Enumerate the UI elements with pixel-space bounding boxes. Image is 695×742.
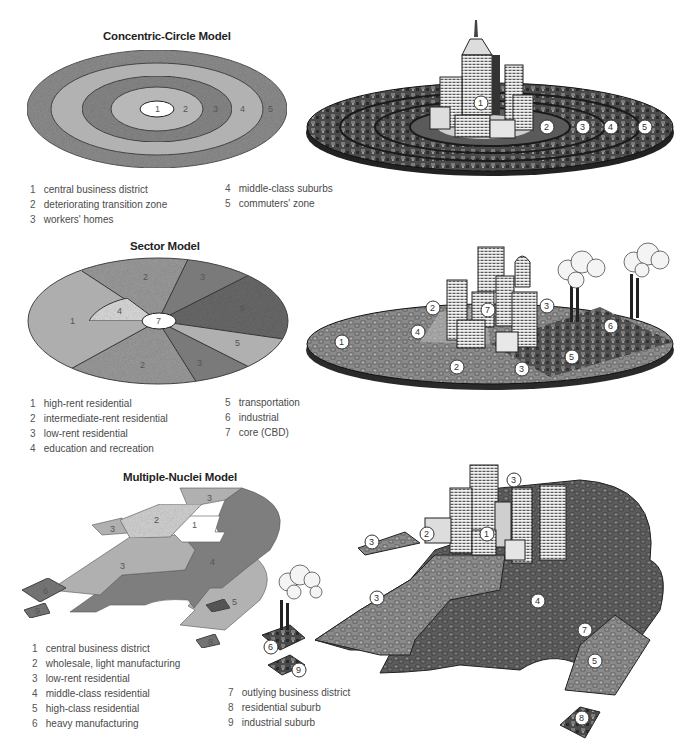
svg-text:2: 2 <box>154 515 159 525</box>
legend-item: 3 low-rent residential <box>32 671 180 686</box>
svg-text:7: 7 <box>582 625 587 635</box>
zone-badge: 2 <box>426 301 440 315</box>
zone-badge: 3 <box>576 120 590 134</box>
zone-badge: 7 <box>481 303 495 317</box>
svg-text:3: 3 <box>374 593 379 603</box>
zone-badge: 8 <box>575 711 589 725</box>
svg-text:4: 4 <box>535 596 540 606</box>
svg-text:2: 2 <box>430 303 435 313</box>
sector-diagram: 1 2 2 3 3 4 5 6 7 <box>27 256 289 386</box>
svg-text:3: 3 <box>207 493 212 503</box>
svg-text:9: 9 <box>35 606 40 616</box>
svg-text:5: 5 <box>569 352 574 362</box>
legend-item: 2 intermediate-rent residential <box>30 411 168 426</box>
zone-badge: 1 <box>474 96 488 110</box>
zone-badge: 4 <box>604 120 618 134</box>
svg-text:6: 6 <box>608 321 613 331</box>
svg-text:3: 3 <box>120 561 125 571</box>
legend-item: 6 industrial <box>225 410 300 425</box>
svg-text:1: 1 <box>484 529 489 539</box>
zone-label: 1 <box>155 104 160 114</box>
svg-text:1: 1 <box>339 337 344 347</box>
svg-text:3: 3 <box>511 475 516 485</box>
zone-badge: 2 <box>450 360 464 374</box>
svg-text:7: 7 <box>156 316 161 326</box>
sector-model-title: Sector Model <box>130 240 200 252</box>
legend-item: 2 wholesale, light manufacturing <box>32 656 180 671</box>
legend-item: 2 deteriorating transition zone <box>30 197 167 212</box>
nuclei-legend-col1: 1 central business district 2 wholesale,… <box>32 641 180 731</box>
svg-text:8: 8 <box>579 713 584 723</box>
zone-badge: 1 <box>335 335 349 349</box>
legend-item: 4 education and recreation <box>30 441 168 456</box>
zone-label: 5 <box>268 104 273 114</box>
zone-badge: 5 <box>638 120 652 134</box>
svg-text:8: 8 <box>208 637 213 647</box>
sector-legend-col2: 5 transportation 6 industrial 7 core (CB… <box>225 395 300 440</box>
legend-item: 1 high-rent residential <box>30 396 168 411</box>
zone-label: 3 <box>213 104 218 114</box>
svg-text:2: 2 <box>544 122 549 132</box>
concentric-diagram: 1 2 3 4 5 <box>25 48 290 170</box>
svg-text:4: 4 <box>415 327 420 337</box>
zone-badge: 2 <box>540 120 554 134</box>
zone-label: 2 <box>183 104 188 114</box>
svg-text:2: 2 <box>454 362 459 372</box>
svg-text:1: 1 <box>70 316 75 326</box>
legend-item: 4 middle-class residential <box>32 686 180 701</box>
svg-text:4: 4 <box>210 557 215 567</box>
sector-legend-col1: 1 high-rent residential 2 intermediate-r… <box>30 396 168 456</box>
nuclei-city-illustration: 3 3 2 1 3 4 7 5 6 9 8 <box>250 440 695 742</box>
svg-text:7: 7 <box>485 305 490 315</box>
svg-text:1: 1 <box>192 520 197 530</box>
concentric-city-illustration: 1 2 3 4 5 <box>300 15 680 180</box>
svg-text:3: 3 <box>200 272 205 282</box>
zone-badge: 3 <box>540 299 554 313</box>
svg-text:5: 5 <box>592 656 597 666</box>
zone-badge: 5 <box>588 654 602 668</box>
svg-text:3: 3 <box>580 122 585 132</box>
zone-badge: 1 <box>480 527 494 541</box>
legend-item: 3 workers' homes <box>30 212 167 227</box>
zone-badge: 9 <box>292 663 306 677</box>
legend-item: 1 central business district <box>30 182 167 197</box>
zone-badge: 4 <box>411 325 425 339</box>
zone-badge: 5 <box>565 350 579 364</box>
zone-label: 4 <box>240 104 245 114</box>
legend-item: 5 high-class residential <box>32 701 180 716</box>
legend-item: 5 commuters' zone <box>225 196 333 211</box>
concentric-model-title: Concentric-Circle Model <box>103 30 231 42</box>
concentric-legend-col2: 4 middle-class suburbs 5 commuters' zone <box>225 181 333 211</box>
zone-badge: 3 <box>515 362 529 376</box>
svg-text:2: 2 <box>140 360 145 370</box>
legend-item: 6 heavy manufacturing <box>32 716 180 731</box>
legend-item: 5 transportation <box>225 395 300 410</box>
zone-badge: 3 <box>370 591 384 605</box>
svg-text:5: 5 <box>642 122 647 132</box>
svg-text:6: 6 <box>240 303 245 313</box>
svg-text:6: 6 <box>268 642 273 652</box>
svg-text:5: 5 <box>235 338 240 348</box>
svg-text:3: 3 <box>369 537 374 547</box>
concentric-legend-col1: 1 central business district 2 deteriorat… <box>30 182 167 227</box>
svg-text:9: 9 <box>296 665 301 675</box>
svg-text:4: 4 <box>117 306 122 316</box>
svg-text:2: 2 <box>424 529 429 539</box>
svg-text:2: 2 <box>143 272 148 282</box>
zone-badge: 6 <box>604 319 618 333</box>
svg-text:6: 6 <box>43 586 48 596</box>
svg-text:3: 3 <box>197 358 202 368</box>
svg-text:4: 4 <box>608 122 613 132</box>
legend-item: 7 core (CBD) <box>225 425 300 440</box>
legend-item: 1 central business district <box>32 641 180 656</box>
zone-badge: 3 <box>365 535 379 549</box>
legend-item: 3 low-rent residential <box>30 426 168 441</box>
svg-text:3: 3 <box>110 524 115 534</box>
svg-text:3: 3 <box>519 364 524 374</box>
zone-badge: 2 <box>420 527 434 541</box>
legend-item: 4 middle-class suburbs <box>225 181 333 196</box>
zone-badge: 3 <box>507 473 521 487</box>
svg-text:1: 1 <box>478 98 483 108</box>
zone-badge: 7 <box>578 623 592 637</box>
svg-text:3: 3 <box>544 301 549 311</box>
